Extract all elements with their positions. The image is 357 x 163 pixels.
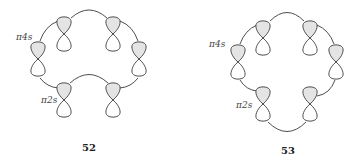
arc-mid-right (317, 80, 335, 96)
p-orbital-left (31, 42, 45, 76)
arc-mid-left (240, 80, 257, 91)
figure-52: π4s π2s 52 (15, 10, 146, 153)
p-orbital-lower-right (106, 83, 120, 117)
p-orbital-left (231, 45, 245, 79)
label-pi2s: π2s (40, 95, 58, 105)
arc-upper-right (120, 21, 138, 41)
p-orbital-top-left (256, 21, 270, 55)
p-orbital-lower-left (256, 87, 270, 121)
figure-53: π4s π2s 53 (208, 13, 343, 157)
p-orbital-top-right (303, 21, 317, 55)
label-pi2s: π2s (235, 100, 253, 110)
arc-top (71, 10, 107, 18)
p-orbital-lower-right (303, 87, 317, 121)
arc-bottom (268, 122, 306, 132)
arc-lower-left (40, 78, 58, 88)
p-orbital-lower-left (57, 83, 71, 117)
label-pi4s: π4s (208, 39, 226, 49)
p-orbital-right (132, 42, 146, 76)
arc-inner (70, 75, 108, 84)
orbital-diagram-canvas: π4s π2s 52 π4s π2s 53 (0, 0, 357, 163)
figure-caption-53: 53 (281, 145, 295, 156)
arc-upper-left (240, 25, 257, 44)
figure-caption-52: 52 (82, 142, 96, 153)
label-pi4s: π4s (15, 32, 33, 42)
p-orbital-top-left (57, 17, 71, 51)
arc-lower-right (120, 78, 138, 88)
arc-upper-right (317, 25, 334, 44)
p-orbital-top-right (106, 17, 120, 51)
arc-upper-left (40, 21, 58, 41)
p-orbital-right (329, 45, 343, 79)
arc-top (270, 13, 304, 22)
